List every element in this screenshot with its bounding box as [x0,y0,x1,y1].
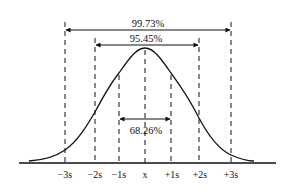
tick-label-mean: x [143,169,148,180]
tick-label-plus-3s: +3s [224,169,239,180]
interval-label-68: 68.26% [130,125,163,136]
x-tick-labels: −3s −2s −1s x +1s +2s +3s [58,169,239,180]
tick-label-minus-1s: −1s [112,169,127,180]
interval-label-99: 99.73% [132,18,165,29]
bell-curve [29,48,254,161]
interval-label-95: 95.45% [130,33,163,44]
tick-label-minus-3s: −3s [58,169,73,180]
tick-label-minus-2s: −2s [88,169,103,180]
tick-label-plus-2s: +2s [193,169,208,180]
normal-distribution-diagram: 99.73% 95.45% 68.26% −3s −2s −1s x +1s +… [0,0,291,189]
tick-label-plus-1s: +1s [165,169,180,180]
